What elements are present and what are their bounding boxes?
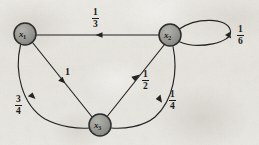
node-label-x2: x2	[164, 30, 171, 41]
edge-label-1: 1	[65, 67, 70, 77]
whole-1: 1	[65, 66, 70, 77]
edge-label-1-6: 1 6	[237, 25, 244, 47]
edge-path-x3-to-x2-straight	[108, 45, 165, 117]
fraction-1-4: 1 4	[169, 90, 176, 111]
fraction-1-2-denominator: 2	[142, 81, 149, 91]
fraction-1-2: 1 2	[142, 70, 149, 91]
fraction-1-4-denominator: 4	[169, 101, 176, 111]
fraction-1-6: 1 6	[237, 25, 244, 46]
arrowhead-x3-to-x2-straight	[131, 75, 140, 82]
node-label-x2-sub: 2	[168, 34, 171, 41]
figure-canvas: x1 x2 x3 1 3 1 6 1 3 4 1 2 1	[0, 0, 259, 145]
fraction-3-4-denominator: 4	[15, 106, 22, 116]
arrowhead-x2-to-x3-curve	[156, 95, 162, 103]
fraction-1-4-numerator: 1	[169, 90, 176, 101]
arrowhead-x1-to-x3-curve	[28, 92, 36, 99]
edge-label-1-3: 1 3	[92, 8, 99, 30]
fraction-1-3-numerator: 1	[92, 8, 99, 19]
fraction-1-2-numerator: 1	[142, 70, 149, 81]
fraction-1-6-numerator: 1	[237, 25, 244, 36]
fraction-1-3: 1 3	[92, 8, 99, 29]
node-label-x1-sub: 1	[23, 33, 26, 40]
node-label-x3-sub: 3	[98, 124, 101, 131]
state-transition-graph	[0, 0, 259, 145]
edge-label-1-2: 1 2	[142, 70, 149, 92]
fraction-1-6-denominator: 6	[237, 36, 244, 46]
arrowhead-x2-to-x1	[96, 32, 103, 38]
node-label-x3: x3	[94, 120, 101, 131]
edge-path-x2-self-loop	[179, 20, 231, 45]
edge-label-3-4: 3 4	[15, 95, 22, 117]
edge-path-x1-to-x3-curve	[18, 45, 89, 128]
node-label-x1: x1	[19, 29, 26, 40]
fraction-3-4: 3 4	[15, 95, 22, 116]
fraction-1-3-denominator: 3	[92, 19, 99, 29]
fraction-3-4-numerator: 3	[15, 95, 22, 106]
arrowhead-x1-to-x3-straight	[58, 77, 65, 84]
edge-label-1-4: 1 4	[169, 90, 176, 112]
